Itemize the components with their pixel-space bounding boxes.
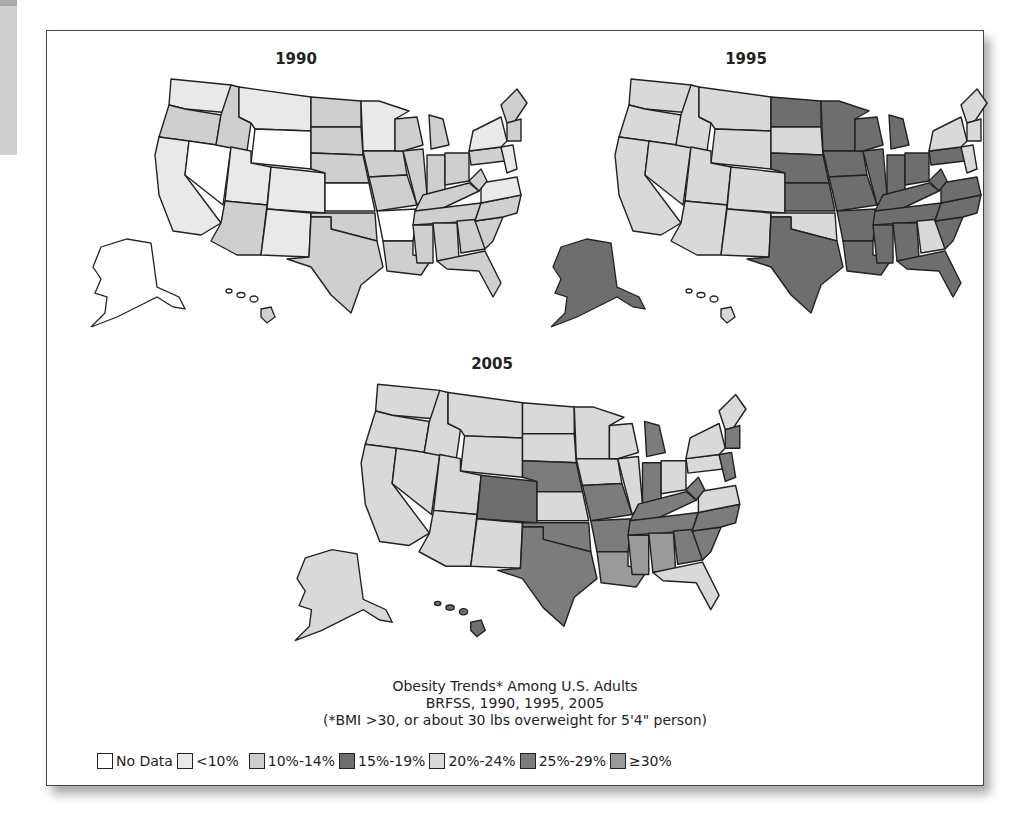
legend-label: 10%-14% (268, 753, 335, 769)
map-1995: 1995 (521, 45, 991, 335)
legend-label: ≥30% (629, 753, 672, 769)
side-tab (0, 0, 17, 155)
caption-title: Obesity Trends* Among U.S. Adults (47, 678, 983, 695)
us-map-1995 (521, 45, 991, 335)
us-map-1990 (61, 45, 531, 335)
legend-item-20-24: 20%-24% (429, 753, 515, 769)
legend-label: 25%-29% (539, 753, 606, 769)
legend-item-gte30: ≥30% (610, 753, 672, 769)
legend-swatch (429, 753, 445, 769)
side-tab-top (0, 0, 17, 6)
legend-item-15-19: 15%-19% (339, 753, 425, 769)
legend-swatch (177, 753, 193, 769)
legend-swatch (520, 753, 536, 769)
map-1990: 1990 (61, 45, 531, 335)
legend-item-lt10: <10% (177, 753, 239, 769)
legend-label: No Data (116, 753, 173, 769)
legend: No Data <10% 10%-14% 15%-19% 20%-24% 25%… (97, 753, 676, 769)
legend-label: 20%-24% (448, 753, 515, 769)
caption: Obesity Trends* Among U.S. Adults BRFSS,… (47, 678, 983, 729)
legend-item-10-14: 10%-14% (249, 753, 335, 769)
legend-swatch (97, 753, 113, 769)
legend-label: <10% (196, 753, 239, 769)
legend-label: 15%-19% (358, 753, 425, 769)
legend-swatch (339, 753, 355, 769)
legend-item-no-data: No Data (97, 753, 173, 769)
caption-source: BRFSS, 1990, 1995, 2005 (47, 695, 983, 712)
legend-item-25-29: 25%-29% (520, 753, 606, 769)
figure-card: 1990 (46, 30, 984, 786)
map-2005: 2005 (257, 349, 757, 649)
us-map-2005 (257, 349, 757, 649)
caption-footnote: (*BMI >30, or about 30 lbs overweight fo… (47, 712, 983, 729)
legend-swatch (249, 753, 265, 769)
legend-swatch (610, 753, 626, 769)
